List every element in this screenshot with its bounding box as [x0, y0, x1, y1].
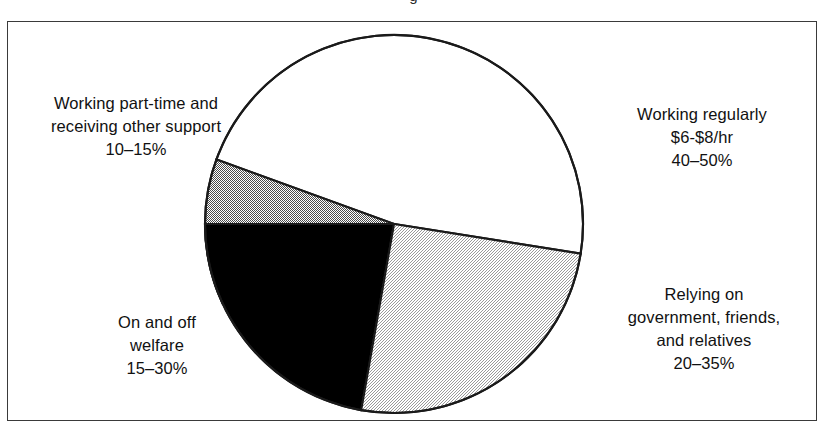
- pie-label-line: and relatives: [596, 329, 812, 352]
- pie-label-value: 20–35%: [596, 352, 812, 375]
- pie-slice-relying-on-support[interactable]: [361, 224, 581, 413]
- pie-label-line: receiving other support: [22, 115, 250, 138]
- pie-label-line: Working part-time and: [22, 92, 250, 115]
- pie-label-line: On and off: [54, 311, 260, 334]
- pie-label-line: $6-$8/hr: [596, 126, 808, 149]
- pie-label-line: government, friends,: [596, 306, 812, 329]
- pie-label-line: Working regularly: [596, 103, 808, 126]
- pie-label-working-part-time: Working part-time and receiving other su…: [22, 92, 250, 161]
- pie-label-value: 15–30%: [54, 357, 260, 380]
- pie-label-line: welfare: [54, 334, 260, 357]
- pie-label-relying-on-support: Relying on government, friends, and rela…: [596, 283, 812, 375]
- pie-label-working-regularly: Working regularly $6-$8/hr 40–50%: [596, 103, 808, 172]
- pie-label-line: Relying on: [596, 283, 812, 306]
- pie-label-on-and-off-welfare: On and off welfare 15–30%: [54, 311, 260, 380]
- pie-chart-figure: g: [0, 0, 827, 434]
- pie-label-value: 40–50%: [596, 149, 808, 172]
- pie-label-value: 10–15%: [22, 138, 250, 161]
